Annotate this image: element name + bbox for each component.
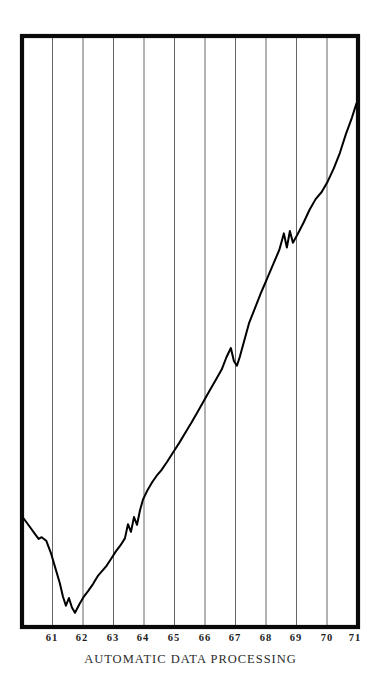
x-tick-label-61: 61 bbox=[35, 631, 69, 645]
x-tick-label-71: 71 bbox=[338, 631, 372, 645]
x-tick-label-69: 69 bbox=[279, 631, 313, 645]
chart-caption-title: AUTOMATIC DATA PROCESSING bbox=[0, 652, 381, 667]
x-tick-label-68: 68 bbox=[249, 631, 283, 645]
x-tick-label-63: 63 bbox=[96, 631, 130, 645]
page-canvas: 61 62 63 64 65 66 67 68 69 70 71 AUTOMAT… bbox=[0, 0, 381, 697]
x-tick-label-66: 66 bbox=[188, 631, 222, 645]
x-tick-label-64: 64 bbox=[126, 631, 160, 645]
x-tick-label-65: 65 bbox=[157, 631, 191, 645]
chart-plot-area bbox=[0, 0, 381, 697]
x-tick-label-67: 67 bbox=[218, 631, 252, 645]
stock-chart-figure: 61 62 63 64 65 66 67 68 69 70 71 AUTOMAT… bbox=[0, 0, 381, 697]
x-tick-label-62: 62 bbox=[65, 631, 99, 645]
x-axis-tick-labels: 61 62 63 64 65 66 67 68 69 70 71 bbox=[0, 631, 381, 647]
plot-background bbox=[22, 36, 358, 627]
